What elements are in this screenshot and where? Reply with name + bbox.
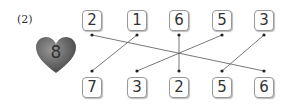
top-number-box: 2: [82, 10, 102, 31]
bottom-number-box: 6: [254, 77, 274, 98]
bottom-number-box: 7: [82, 77, 102, 98]
bottom-number-box: 2: [169, 77, 189, 98]
bottom-number-box: 3: [127, 77, 147, 98]
top-number-box: 5: [212, 10, 232, 31]
top-number-box: 3: [254, 10, 274, 31]
bottom-number-box: 5: [212, 77, 232, 98]
top-number-box: 1: [127, 10, 147, 31]
top-number-box: 6: [169, 10, 189, 31]
